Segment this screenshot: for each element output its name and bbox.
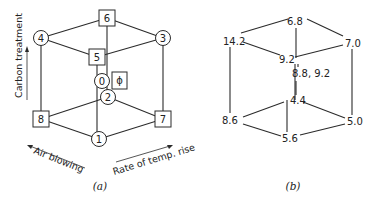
value-node-3: 7.0 bbox=[345, 38, 361, 49]
node-1: 1 bbox=[92, 132, 107, 147]
svg-text:0: 0 bbox=[99, 76, 105, 87]
axis-rate-temp-rise: Rate of temp. rise bbox=[111, 141, 196, 176]
node-5: 5 bbox=[89, 49, 105, 65]
value-node-0: 8.8, 9.2 bbox=[292, 68, 330, 79]
caption-a: (a) bbox=[93, 180, 107, 192]
value-node-1: 5.6 bbox=[282, 133, 298, 144]
node-8: 8 bbox=[33, 111, 49, 127]
svg-text:ϕ: ϕ bbox=[116, 75, 123, 86]
svg-text:8: 8 bbox=[38, 114, 44, 125]
axis-air-blowing: Air blowing bbox=[27, 145, 86, 175]
svg-text:4: 4 bbox=[38, 33, 44, 44]
node-6: 6 bbox=[99, 10, 115, 26]
value-node-7: 5.0 bbox=[347, 116, 363, 127]
axis-carbon-treatment: Carbon treatment bbox=[13, 13, 29, 100]
svg-text:Carbon treatment: Carbon treatment bbox=[13, 13, 24, 98]
svg-text:Air blowing: Air blowing bbox=[32, 145, 85, 175]
value-node-4: 14.2 bbox=[223, 36, 245, 47]
svg-text:1: 1 bbox=[96, 134, 102, 145]
caption-b: (b) bbox=[286, 180, 301, 192]
node-2: 2 bbox=[101, 90, 116, 105]
cube-edges-b bbox=[230, 19, 352, 136]
value-node-5: 9.2 bbox=[279, 54, 295, 65]
svg-text:7: 7 bbox=[160, 114, 166, 125]
value-node-2: 4.4 bbox=[290, 95, 306, 106]
node-7: 7 bbox=[155, 111, 171, 127]
svg-text:2: 2 bbox=[105, 92, 111, 103]
node-3: 3 bbox=[156, 31, 171, 46]
svg-text:Rate of temp. rise: Rate of temp. rise bbox=[111, 141, 196, 176]
arrow-up-icon bbox=[25, 46, 29, 52]
cube-diagrams: 6 4 3 5 0 ϕ 2 bbox=[0, 0, 369, 203]
panel-a: 6 4 3 5 0 ϕ 2 bbox=[13, 10, 196, 192]
value-node-8: 8.6 bbox=[222, 115, 238, 126]
node-4: 4 bbox=[34, 31, 49, 46]
node-phi: ϕ bbox=[112, 72, 127, 89]
svg-text:3: 3 bbox=[160, 33, 166, 44]
svg-text:6: 6 bbox=[104, 13, 110, 24]
value-node-6: 6.8 bbox=[287, 16, 303, 27]
svg-text:5: 5 bbox=[94, 52, 100, 63]
node-0: 0 bbox=[95, 74, 110, 89]
panel-b: 6.8 14.2 7.0 9.2 8.8, 9.2 4.4 8.6 5.0 5.… bbox=[222, 16, 363, 192]
